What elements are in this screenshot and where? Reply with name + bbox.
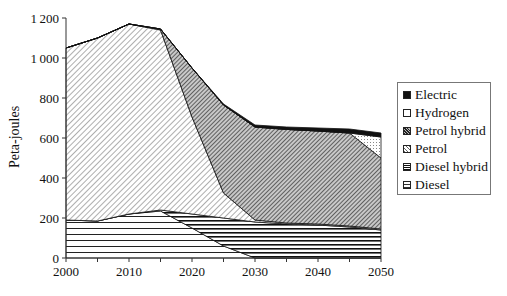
legend-label: Electric — [415, 87, 457, 103]
y-tick-label: 400 — [40, 171, 60, 186]
legend-label: Diesel — [415, 177, 450, 193]
legend-swatch-icon — [403, 145, 411, 153]
legend-swatch-icon — [403, 91, 411, 99]
x-tick-label: 2020 — [179, 264, 205, 279]
chart-areas — [66, 24, 381, 258]
legend-swatch-icon — [403, 163, 411, 171]
legend-item-electric: Electric — [403, 86, 490, 104]
y-tick-label: 200 — [40, 211, 60, 226]
legend-swatch-icon — [403, 109, 411, 117]
chart-legend: ElectricHydrogenPetrol hybridPetrolDiese… — [397, 82, 491, 195]
y-tick-label: 800 — [40, 91, 60, 106]
legend-label: Petrol — [415, 141, 447, 157]
legend-swatch-icon — [403, 181, 411, 189]
legend-swatch-icon — [403, 127, 411, 135]
x-tick-label: 2040 — [305, 264, 331, 279]
legend-label: Petrol hybrid — [415, 123, 486, 139]
y-tick-label: 1 200 — [30, 11, 59, 26]
x-tick-label: 2000 — [53, 264, 79, 279]
x-axis: 200020102020203020402050 — [53, 258, 394, 279]
y-axis-title: Peta-joules — [7, 106, 22, 168]
legend-item-diesel: Diesel — [403, 176, 490, 194]
y-tick-label: 600 — [40, 131, 60, 146]
legend-item-petrol-hybrid: Petrol hybrid — [403, 122, 490, 140]
x-tick-label: 2010 — [116, 264, 142, 279]
y-axis: 02004006008001 0001 200 — [30, 11, 66, 266]
x-tick-label: 2050 — [368, 264, 394, 279]
x-tick-label: 2030 — [242, 264, 268, 279]
y-tick-label: 1 000 — [30, 51, 59, 66]
legend-item-petrol: Petrol — [403, 140, 490, 158]
legend-item-hydrogen: Hydrogen — [403, 104, 490, 122]
legend-item-diesel-hybrid: Diesel hybrid — [403, 158, 490, 176]
legend-label: Hydrogen — [415, 105, 469, 121]
legend-label: Diesel hybrid — [415, 159, 488, 175]
